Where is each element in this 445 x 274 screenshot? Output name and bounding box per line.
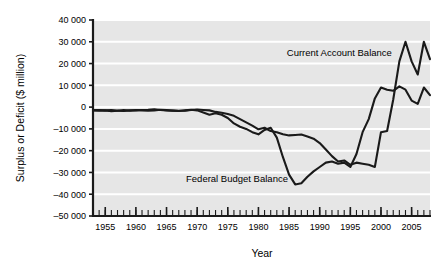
x-tick-label: 1955 [95, 222, 115, 232]
x-tick-label: 1970 [187, 222, 207, 232]
y-axis-title: Surplus or Deficit ($ million) [14, 54, 26, 182]
y-tick-label: –50 000 [53, 211, 86, 221]
x-axis-title: Year [251, 247, 273, 259]
y-tick-label: 20 000 [58, 59, 86, 69]
series-label: Federal Budget Balance [186, 173, 288, 184]
x-tick-label: 1975 [218, 222, 238, 232]
series-label: Current Account Balance [287, 47, 392, 58]
y-tick-label: –10 000 [53, 124, 86, 134]
y-tick-label: –30 000 [53, 168, 86, 178]
y-tick-label: 10 000 [58, 81, 86, 91]
y-tick-label: 40 000 [58, 15, 86, 25]
y-tick-label: –20 000 [53, 146, 86, 156]
dual-line-chart: 40 00030 00020 00010 0000–10 000–20 000–… [0, 0, 445, 274]
x-tick-label: 2000 [371, 222, 391, 232]
chart-figure: 40 00030 00020 00010 0000–10 000–20 000–… [0, 0, 445, 274]
x-tick-label: 1965 [157, 222, 177, 232]
y-tick-label: 0 [81, 102, 86, 112]
y-tick-label: 30 000 [58, 37, 86, 47]
x-tick-label: 1980 [248, 222, 268, 232]
y-tick-label: –40 000 [53, 190, 86, 200]
x-tick-label: 1960 [126, 222, 146, 232]
x-tick-label: 1985 [279, 222, 299, 232]
x-axis-tick-labels: 1955196019651970197519801985199019952000… [95, 222, 421, 232]
x-tick-label: 2005 [402, 222, 422, 232]
x-tick-label: 1990 [310, 222, 330, 232]
x-tick-label: 1995 [340, 222, 360, 232]
